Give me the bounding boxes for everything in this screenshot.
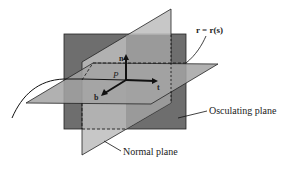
tangent-vector-label: t xyxy=(157,83,160,92)
normal-plane-leader xyxy=(104,141,121,151)
frenet-diagram: r = r(s) n P t b Osculating plane Normal… xyxy=(0,0,294,171)
curve-label: r = r(s) xyxy=(196,25,223,35)
normal-plane-label: Normal plane xyxy=(123,146,178,157)
normal-vector-label: n xyxy=(119,54,124,63)
curve-label-leader xyxy=(186,36,206,63)
binormal-vector-label: b xyxy=(94,93,99,102)
osculating-plane-label: Osculating plane xyxy=(209,105,277,116)
point-label: P xyxy=(112,70,119,80)
tangent-vector xyxy=(126,80,155,81)
